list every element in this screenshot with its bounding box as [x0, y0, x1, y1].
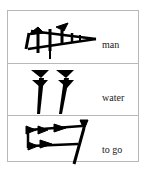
label-man: man [102, 39, 119, 50]
cuneiform-to-go-icon [16, 118, 106, 166]
cuneiform-water-icon [16, 66, 106, 114]
label-water: water [102, 92, 124, 103]
row-man: man [8, 11, 138, 63]
label-to-go: to go [102, 144, 122, 155]
cuneiform-card: man water [7, 10, 139, 162]
cuneiform-man-icon [16, 13, 106, 61]
row-to-go: to go [8, 115, 138, 168]
row-water: water [8, 63, 138, 116]
